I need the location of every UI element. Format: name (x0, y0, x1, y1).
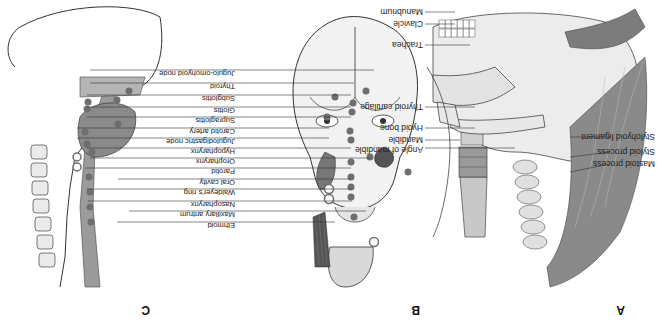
panel-label-a: A (616, 303, 625, 317)
label-oral-cavity: Oral cavity (200, 178, 235, 187)
panel-label-b: B (411, 303, 420, 317)
label-parotid: Parotid (211, 167, 235, 176)
label-supraglottis: Supraglottis (195, 116, 235, 125)
label-clavicle: Clavicle (393, 19, 423, 29)
label-manubrium: Manubrium (380, 7, 423, 17)
label-ethmoid: Ethmoid (207, 221, 235, 230)
label-hypopharynx: Hypopharynx (191, 147, 235, 156)
label-hyoid-bone: Hyoid bone (380, 123, 423, 133)
label-mandible: Mandible (389, 135, 424, 145)
label-styloid-process: Styloid process (597, 147, 655, 157)
label-jugulodigastric-node: Jugulodigastric node (166, 137, 235, 146)
label-jugulo-omohyoid-node: Jugulo-omohyoid node (159, 69, 235, 78)
label-thyroid: Thyroid (210, 82, 235, 91)
anatomy-figure: A Manubrium Clavicle Trachea Thyroid car… (0, 0, 665, 327)
label-oropharynx: Oropharynx (196, 157, 235, 166)
label-trachea: Trachea (392, 40, 423, 50)
label-angle-of-mandible: Angle of mandible (355, 145, 423, 155)
label-waldeyers-ring: Waldeyer's ring (184, 188, 235, 197)
label-mastoid-process: Mastoid process (593, 159, 655, 169)
panel-label-c: C (141, 303, 150, 317)
anatomy-drawing (0, 0, 665, 327)
label-thyroid-cartilage: Thyroid cartilage (360, 102, 423, 112)
label-carotid-artery: Carotid artery (190, 127, 235, 136)
label-subglottis: Subglottis (202, 94, 235, 103)
label-maxillary-antrum: Maxillary antrum (180, 210, 235, 219)
panel-c-drawing (8, 7, 162, 287)
label-nasopharynx: Nasopharynx (191, 200, 235, 209)
label-stylohyoid-ligament: Stylohyoid ligament (581, 132, 655, 142)
label-glottis: Glottis (214, 106, 235, 115)
